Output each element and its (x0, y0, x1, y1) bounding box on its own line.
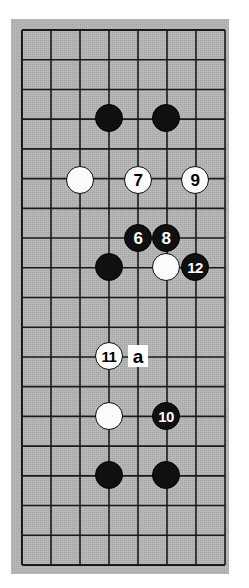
stone-white-numbered-7: 7 (124, 166, 152, 194)
stone-number-label: 11 (102, 349, 117, 364)
stone-number-label: 7 (134, 172, 143, 189)
board-grid-lines (0, 0, 249, 588)
stone-black-plain (95, 253, 123, 281)
stone-number-label: 8 (162, 230, 171, 247)
stone-white-plain (95, 402, 123, 430)
stone-white-plain (152, 253, 180, 281)
stone-black-plain (95, 461, 123, 489)
stone-white-numbered-11: 11 (95, 342, 123, 370)
stone-black-plain (152, 104, 180, 132)
stone-white-plain (66, 166, 94, 194)
stone-black-plain (95, 104, 123, 132)
go-board-diagram: 7968121110a (0, 0, 249, 588)
stone-black-numbered-10: 10 (152, 402, 180, 430)
point-label-a: a (128, 345, 148, 367)
stone-black-numbered-8: 8 (152, 224, 180, 252)
stone-number-label: 9 (191, 172, 200, 189)
stone-number-label: 6 (134, 230, 143, 247)
point-label-text: a (133, 347, 144, 366)
stone-black-numbered-12: 12 (181, 253, 209, 281)
stone-black-numbered-6: 6 (124, 224, 152, 252)
stone-white-numbered-9: 9 (181, 166, 209, 194)
stone-number-label: 12 (187, 260, 203, 275)
stone-black-plain (152, 461, 180, 489)
stone-number-label: 10 (158, 409, 174, 424)
